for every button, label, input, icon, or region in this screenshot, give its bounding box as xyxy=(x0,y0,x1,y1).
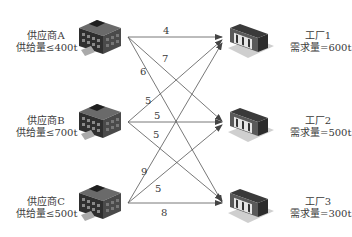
supplier-c-capacity: 供给量≤500t xyxy=(16,208,76,220)
factory-1-name: 工厂1 xyxy=(290,30,346,42)
cost-b-3: 5 xyxy=(153,129,159,140)
factory-2-demand: 需求量=500t xyxy=(290,127,346,139)
transportation-diagram: 4 7 6 5 5 5 9 5 8 供应商A 供给量≤400t 供应商B 供给量… xyxy=(0,0,352,237)
factory-2-label: 工厂2 需求量=500t xyxy=(290,115,346,139)
factory-1-label: 工厂1 需求量=600t xyxy=(290,30,346,54)
edge-b-1 xyxy=(128,40,222,122)
edge-b-3 xyxy=(128,122,222,200)
factory-1-demand: 需求量=600t xyxy=(290,42,346,54)
supplier-a-label: 供应商A 供给量≤400t xyxy=(16,30,76,54)
cost-a-1: 4 xyxy=(163,25,169,36)
supplier-c-name: 供应商C xyxy=(16,196,76,208)
cost-a-2: 7 xyxy=(162,53,168,64)
cost-c-1: 9 xyxy=(141,166,147,177)
factory-building-icon xyxy=(226,102,276,144)
factory-3-demand: 需求量=300t xyxy=(290,208,346,220)
edge-a-3 xyxy=(128,37,222,202)
edge-a-2 xyxy=(128,37,222,121)
supplier-a-capacity: 供给量≤400t xyxy=(16,42,76,54)
supplier-a-name: 供应商A xyxy=(16,30,76,42)
cost-b-2: 5 xyxy=(154,110,160,121)
cost-c-2: 5 xyxy=(155,183,161,194)
cost-a-3: 6 xyxy=(140,66,146,77)
office-building-icon xyxy=(75,181,125,223)
office-building-icon xyxy=(75,16,125,58)
factory-2-name: 工厂2 xyxy=(290,115,346,127)
supplier-b-capacity: 供给量≤700t xyxy=(16,127,76,139)
supplier-b-label: 供应商B 供给量≤700t xyxy=(16,115,76,139)
factory-building-icon xyxy=(226,183,276,225)
edge-c-2 xyxy=(128,125,222,203)
factory-3-label: 工厂3 需求量=300t xyxy=(290,196,346,220)
cost-c-3: 8 xyxy=(161,207,167,218)
supplier-c-label: 供应商C 供给量≤500t xyxy=(16,196,76,220)
factory-building-icon xyxy=(226,18,276,60)
cost-b-1: 5 xyxy=(145,95,151,106)
office-building-icon xyxy=(75,100,125,142)
supplier-b-name: 供应商B xyxy=(16,115,76,127)
factory-3-name: 工厂3 xyxy=(290,196,346,208)
